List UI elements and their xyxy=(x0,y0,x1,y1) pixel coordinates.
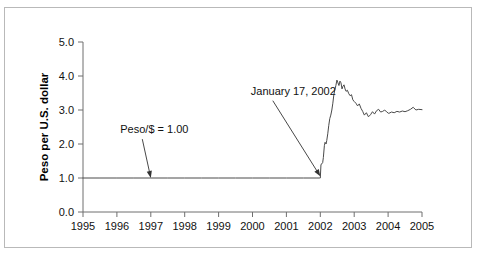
annotation-label-devaluation-date: January 17, 2002 xyxy=(251,85,336,97)
y-tick-label: 0.0 xyxy=(59,206,74,218)
x-tick-label: 2003 xyxy=(342,220,366,232)
y-tick-group xyxy=(78,42,83,212)
x-tick-label-group: 1995199619971998199920002001200220032004… xyxy=(71,220,434,232)
x-tick-label: 1999 xyxy=(206,220,230,232)
x-tick-label: 2004 xyxy=(376,220,400,232)
annotation-arrow-peso-parity xyxy=(142,139,149,172)
y-tick-label-group: 0.01.02.03.04.05.0 xyxy=(59,36,74,218)
annotation-arrow-devaluation-date xyxy=(273,101,317,172)
y-tick-label: 2.0 xyxy=(59,138,74,150)
y-tick-label: 3.0 xyxy=(59,104,74,116)
x-tick-label: 2002 xyxy=(308,220,332,232)
y-tick-label: 4.0 xyxy=(59,70,74,82)
annotation-group: Peso/$ = 1.00January 17, 2002 xyxy=(120,85,336,178)
y-tick-label: 5.0 xyxy=(59,36,74,48)
x-tick-label: 1996 xyxy=(105,220,129,232)
x-tick-label: 2005 xyxy=(410,220,434,232)
annotation-arrowhead-devaluation-date xyxy=(314,169,320,176)
x-tick-label: 2001 xyxy=(274,220,298,232)
x-tick-label: 1997 xyxy=(139,220,163,232)
x-tick-label: 2000 xyxy=(240,220,264,232)
exchange-rate-line-chart: 0.01.02.03.04.05.0 199519961997199819992… xyxy=(0,0,479,257)
y-tick-label: 1.0 xyxy=(59,172,74,184)
annotation-arrowhead-peso-parity xyxy=(147,171,152,178)
y-axis-title: Peso per U.S. dollar xyxy=(38,72,50,181)
x-tick-group xyxy=(83,212,422,217)
x-tick-label: 1998 xyxy=(172,220,196,232)
x-tick-label: 1995 xyxy=(71,220,95,232)
annotation-label-peso-parity: Peso/$ = 1.00 xyxy=(120,123,188,135)
